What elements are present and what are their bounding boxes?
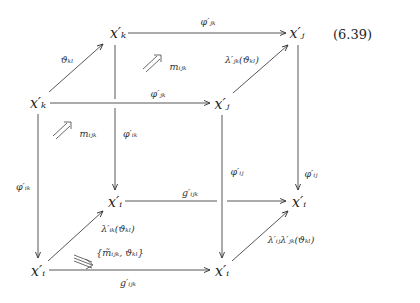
label-theta-kl: ϑₖₗ [61,55,74,65]
node-front-bottom-right: x′ᵢ [215,264,229,278]
node-back-top-left: x′ₖ [110,26,126,40]
node-back-top-right: x′ⱼ [290,26,305,40]
label-lambda-ik-theta: λ′ᵢₖ(ϑₖₗ) [101,224,135,234]
node-back-bottom-left: x′ᵢ [108,195,122,209]
node-front-bottom-left: x′ᵢ [31,264,45,278]
arrow-lambda-ik [48,211,103,261]
label-2cell-bottom-face: {m̃ᵢⱼₖ, ϑₖₗ} [96,248,144,258]
label-front-right-phi-ij: φ′ᵢⱼ [230,167,243,177]
double-arrow-back-face [143,55,161,72]
equation-number: (6.39) [333,27,372,42]
label-back-right-phi-ij: φ′ᵢⱼ [304,169,317,179]
node-back-bottom-right: x′ᵢ [292,195,306,209]
label-front-left-phi-ik: φ′ᵢₖ [16,182,30,192]
label-2cell-back-face: mᵢⱼₖ [170,62,187,72]
node-front-top-left: x′ₖ [30,96,46,110]
label-2cell-left-face: mᵢⱼₖ [80,129,97,139]
node-front-top-right: x′ⱼ [215,97,230,111]
double-arrow-bottom-face [74,255,93,269]
arrow-lambda-jk [233,45,288,93]
label-front-bottom-g-ijk: g′ᵢⱼₖ [120,278,136,288]
label-front-top-phi-jk: φ′ⱼₖ [151,89,166,99]
label-back-left-phi-ik: φ′ᵢₖ [123,129,137,139]
label-back-top-phi-jk: φ′ⱼₖ [201,17,216,27]
cube-diagram-arrows [0,0,420,303]
arrow-theta-kl [49,44,103,92]
label-back-bottom-g-ijk: g′ᵢⱼₖ [182,188,198,198]
label-lambda-jk-theta: λ′ⱼₖ(ϑₖₗ) [225,55,259,65]
label-lambda-ij-lambda-jk-theta: λ′ᵢⱼλ′ⱼₖ(ϑₖₗ) [268,235,315,245]
double-arrow-left-face [53,122,71,139]
